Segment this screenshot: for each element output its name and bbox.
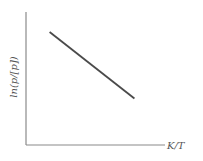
y-axis-label: ln(p/[p]): [8, 56, 19, 98]
x-axis-label: K/T: [166, 140, 186, 151]
data-line: [50, 32, 135, 99]
chart: K/T ln(p/[p]): [0, 0, 203, 161]
